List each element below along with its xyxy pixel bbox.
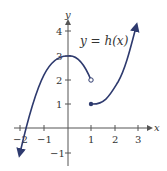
x-tick-label: −2 [13,134,28,145]
x-tick-label: 3 [135,134,141,145]
open-endpoint [89,78,93,82]
x-tick-label: 2 [112,134,118,145]
function-label: y = h(x) [79,34,129,48]
x-axis-label: x [154,122,160,133]
x-tick-label: −1 [37,134,52,145]
y-tick-label: −1 [50,148,65,159]
x-tick-label: 1 [88,134,94,145]
y-tick-label: 2 [56,75,62,86]
y-axis-label: y [64,9,71,20]
closed-endpoint [89,102,93,106]
y-tick-label: 4 [56,26,62,37]
y-tick-label: 1 [56,99,62,110]
function-graph: −2 −1 1 2 3 4 3 2 1 −1 x y y = h(x) [0,0,167,171]
